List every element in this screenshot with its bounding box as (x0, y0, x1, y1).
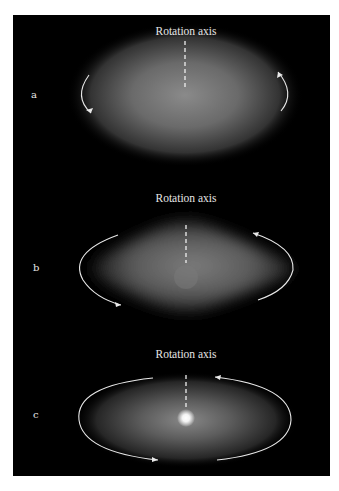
rotation-axis-label-b: Rotation axis (155, 192, 216, 204)
panel-label-c: c (33, 409, 39, 420)
rotation-axis-label-c: Rotation axis (155, 348, 216, 360)
galaxy-c-illustration (13, 320, 330, 476)
galaxy-b-bulge (174, 265, 198, 289)
panel-label-b: b (33, 262, 39, 273)
galaxy-b-illustration (13, 165, 330, 320)
galaxy-b-glow (83, 215, 303, 317)
panel-a: a Rotation axis (13, 15, 330, 165)
panel-b: b Rotation axis (13, 165, 330, 320)
rotation-axis-label-a: Rotation axis (155, 25, 216, 37)
figure-panel: a Rotation axis b Rotation axis (13, 15, 330, 476)
galaxy-c-nucleus (177, 409, 195, 427)
panel-c: c Rotation axis (13, 320, 330, 476)
panel-label-a: a (31, 89, 37, 100)
galaxy-a-illustration (13, 15, 330, 165)
